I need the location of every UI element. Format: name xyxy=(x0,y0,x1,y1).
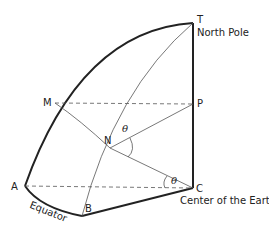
label-P: P xyxy=(197,99,203,109)
dashed-MP xyxy=(55,103,193,104)
parallel-arc-MN xyxy=(55,103,110,148)
line-NC xyxy=(110,148,193,188)
label-center-of-earth: Center of the Earth xyxy=(180,196,269,206)
label-theta-C: θ xyxy=(171,176,177,186)
earth-geometry-diagram: T North Pole P M N θ θ A B C Center of t… xyxy=(0,0,269,231)
label-M: M xyxy=(43,98,52,108)
label-A: A xyxy=(11,182,18,192)
label-T: T xyxy=(197,15,203,25)
label-B: B xyxy=(85,204,92,214)
angle-arc-N xyxy=(128,138,133,157)
label-north-pole: North Pole xyxy=(197,28,249,38)
label-theta-N: θ xyxy=(122,124,128,134)
dashed-AC xyxy=(25,186,193,188)
label-C: C xyxy=(196,184,203,194)
label-N: N xyxy=(104,136,111,146)
angle-arc-C xyxy=(164,176,167,188)
line-BC xyxy=(82,188,193,216)
